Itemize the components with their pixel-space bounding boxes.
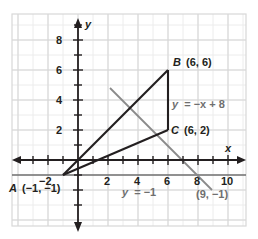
equation-diagonal-lhs: y xyxy=(171,98,179,110)
equation-diagonal-rhs: = −x + 8 xyxy=(184,98,225,110)
y-tick-label-4: 4 xyxy=(56,94,63,106)
point-label-a-coords: (−1, −1) xyxy=(22,182,61,194)
point-label-d: (9, −1) xyxy=(196,188,228,200)
equation-label-diagonal: y = −x + 8 xyxy=(171,98,225,110)
y-tick-label-6: 6 xyxy=(56,64,62,76)
point-label-b-coords: (6, 6) xyxy=(186,56,212,68)
point-label-a: A (−1, −1) xyxy=(8,182,61,194)
background xyxy=(0,0,258,239)
point-label-b: B (6, 6) xyxy=(173,56,212,68)
graph-canvas: −2 2 4 6 8 10 2 4 6 8 y x B (6, 6) C (6,… xyxy=(0,0,258,239)
point-label-c: C (6, 2) xyxy=(171,124,210,136)
point-label-c-name: C xyxy=(171,124,180,136)
x-axis-label: x xyxy=(224,142,232,154)
coordinate-plane-figure: −2 2 4 6 8 10 2 4 6 8 y x B (6, 6) C (6,… xyxy=(0,0,258,239)
x-tick-label-10: 10 xyxy=(221,175,233,187)
y-axis-label: y xyxy=(84,18,92,30)
x-tick-label-6: 6 xyxy=(164,175,170,187)
equation-horizontal-lhs: y xyxy=(121,186,129,198)
point-label-a-name: A xyxy=(8,182,17,194)
y-tick-label-2: 2 xyxy=(56,124,62,136)
y-tick-label-8: 8 xyxy=(56,34,62,46)
point-label-b-name: B xyxy=(173,56,181,68)
point-label-c-coords: (6, 2) xyxy=(184,124,210,136)
equation-label-horizontal: y = −1 xyxy=(121,186,156,198)
equation-horizontal-rhs: = −1 xyxy=(134,186,156,198)
x-tick-label-8: 8 xyxy=(194,175,200,187)
x-tick-label-2: 2 xyxy=(104,175,110,187)
